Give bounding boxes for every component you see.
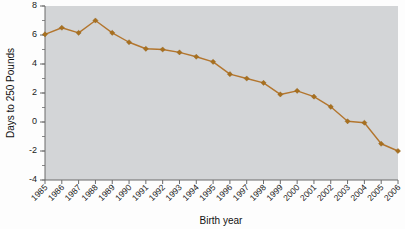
x-tick-label: 1987 — [63, 182, 84, 203]
x-tick-label: 2004 — [348, 182, 369, 203]
y-axis-title: Days to 250 Pounds — [5, 48, 16, 138]
x-tick-label: 1996 — [214, 182, 235, 203]
chart-container: 86420-2-4 198519861987198819891990199119… — [0, 0, 405, 229]
x-tick-label: 1992 — [147, 182, 168, 203]
y-tick-label: -4 — [29, 174, 37, 184]
x-tick-label: 1994 — [180, 182, 201, 203]
x-tick-label: 1995 — [197, 182, 218, 203]
x-tick-label: 1986 — [46, 182, 67, 203]
x-tick-label: 1990 — [113, 182, 134, 203]
y-axis-major-ticks — [40, 6, 45, 180]
x-tick-label: 2000 — [281, 182, 302, 203]
y-tick-label: 2 — [32, 87, 37, 97]
x-tick-label: 2001 — [298, 182, 319, 203]
x-tick-label: 1989 — [96, 182, 117, 203]
y-axis-tick-labels: 86420-2-4 — [29, 0, 37, 184]
x-tick-label: 1988 — [79, 182, 100, 203]
x-tick-label: 1997 — [231, 182, 252, 203]
x-tick-label: 2002 — [315, 182, 336, 203]
x-tick-label: 2006 — [382, 182, 403, 203]
y-tick-label: -2 — [29, 145, 37, 155]
x-tick-label: 2005 — [365, 182, 386, 203]
y-tick-label: 6 — [32, 29, 37, 39]
y-tick-label: 4 — [32, 58, 37, 68]
line-chart: 86420-2-4 198519861987198819891990199119… — [0, 0, 405, 229]
x-tick-label: 1998 — [247, 182, 268, 203]
plot-background — [45, 6, 398, 180]
x-tick-label: 1991 — [130, 182, 151, 203]
y-tick-label: 0 — [32, 116, 37, 126]
y-tick-label: 8 — [32, 0, 37, 10]
x-tick-label: 1993 — [163, 182, 184, 203]
x-tick-label: 2003 — [332, 182, 353, 203]
x-tick-label: 1985 — [29, 182, 50, 203]
x-axis-title: Birth year — [200, 215, 243, 226]
x-tick-label: 1999 — [264, 182, 285, 203]
x-axis-tick-labels: 1985198619871988198919901991199219931994… — [29, 182, 403, 203]
